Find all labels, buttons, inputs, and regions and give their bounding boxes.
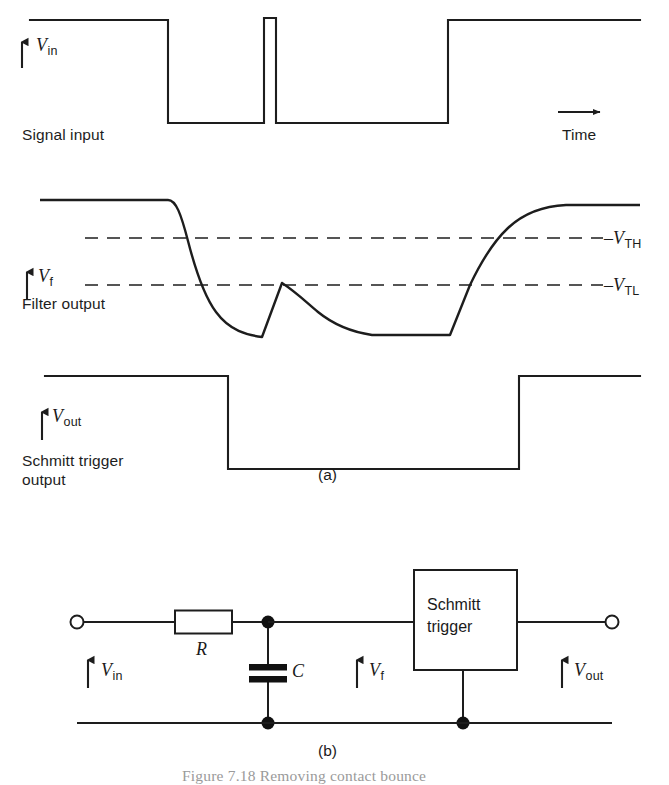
trace-vout xyxy=(45,376,640,469)
time-axis-label: Time xyxy=(562,125,596,144)
trace-label-signal-input: Signal input xyxy=(22,125,104,144)
circuit-label-vin: Vin xyxy=(101,661,123,682)
threshold-lines xyxy=(85,238,603,285)
capacitor-label: C xyxy=(292,662,304,680)
axis-label-vout: Vout xyxy=(52,407,81,428)
circuit-label-vout: Vout xyxy=(574,661,603,682)
resistor-label: R xyxy=(196,640,207,658)
waveform-signal-input xyxy=(30,18,640,123)
figure-bottom-caption: Figure 7.18 Removing contact bounce xyxy=(182,767,426,785)
trace-vf xyxy=(40,200,640,337)
capacitor-plate-bottom xyxy=(249,676,287,683)
input-terminal-icon xyxy=(71,616,84,629)
waveform-filter-output xyxy=(40,200,640,337)
axis-label-vin: Vin xyxy=(36,36,58,57)
panel-caption-b: (b) xyxy=(318,742,337,760)
trace-label-filter-output: Filter output xyxy=(22,294,105,313)
waveform-schmitt-output xyxy=(45,376,640,469)
circuit-schematic xyxy=(71,570,619,730)
circuit-label-vf: Vf xyxy=(369,661,384,682)
trace-label-schmitt-output-line1: Schmitt trigger xyxy=(22,451,123,470)
resistor-symbol xyxy=(175,611,232,634)
output-terminal-icon xyxy=(606,616,619,629)
threshold-label-vtl: –VTL xyxy=(604,276,640,297)
schmitt-block-label-line1: Schmitt xyxy=(427,594,480,615)
trace-label-schmitt-output-line2: output xyxy=(22,470,66,489)
trace-vin xyxy=(30,18,640,123)
capacitor-plate-top xyxy=(249,664,287,671)
panel-caption-a: (a) xyxy=(318,466,337,484)
axis-label-vf: Vf xyxy=(38,267,53,288)
schmitt-block-label-line2: trigger xyxy=(427,616,472,637)
threshold-label-vth: –VTH xyxy=(604,229,642,250)
